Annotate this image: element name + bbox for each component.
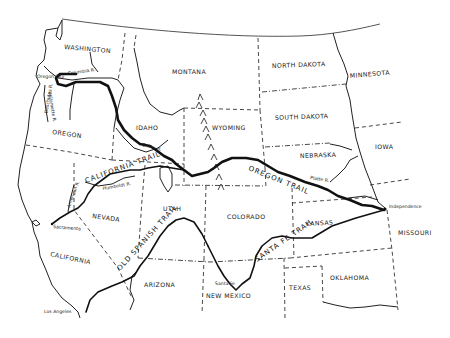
tx-ok-east bbox=[322, 266, 323, 302]
ne-ks-border bbox=[292, 197, 372, 203]
place-label-los-angeles: Los Angeles bbox=[44, 309, 72, 314]
state-label-south-dakota: SOUTH DAKOTA bbox=[275, 112, 329, 121]
state-label-nevada: NEVADA bbox=[92, 212, 121, 223]
state-label-washington: WASHINGTON bbox=[64, 43, 111, 54]
mn-ia-border bbox=[355, 122, 402, 128]
wy-sd-border bbox=[260, 110, 265, 168]
state-label-missouri: MISSOURI bbox=[398, 229, 432, 236]
mo-ks-border bbox=[387, 210, 398, 310]
river-label-snake: Snake R. bbox=[142, 142, 163, 152]
ut-co-border bbox=[204, 186, 206, 258]
id-mt-border bbox=[134, 35, 136, 48]
ks-ok-border bbox=[290, 248, 392, 258]
co-ks-border bbox=[292, 188, 294, 258]
state-label-north-dakota: NORTH DAKOTA bbox=[272, 60, 326, 69]
independence-marker bbox=[383, 207, 386, 210]
nd-sd-border bbox=[262, 84, 346, 92]
red-river bbox=[323, 302, 398, 308]
wa-id-border bbox=[118, 33, 125, 80]
deschutes-line bbox=[70, 84, 74, 120]
pacific-coastline bbox=[18, 20, 80, 318]
puget-sound bbox=[56, 20, 62, 40]
place-label-independence: Independence bbox=[389, 204, 422, 209]
state-label-new-mexico: NEW MEXICO bbox=[206, 292, 251, 299]
state-label-oregon: OREGON bbox=[52, 128, 82, 139]
red-river-border bbox=[333, 33, 385, 208]
az-nm-border bbox=[202, 258, 204, 314]
mt-nd-border bbox=[258, 38, 260, 110]
state-label-idaho: IDAHO bbox=[136, 124, 158, 131]
state-label-montana: MONTANA bbox=[172, 68, 206, 75]
or-ca-border bbox=[26, 145, 112, 160]
place-label-sacramento: Sacramento bbox=[53, 224, 81, 231]
great-salt-lake-shape bbox=[160, 166, 172, 192]
mt-wy-border bbox=[184, 108, 260, 110]
place-label-oregon-city: Oregon City bbox=[37, 74, 65, 79]
place-label-santa-fe: Santa Fe bbox=[215, 281, 235, 286]
river-label-american: American R. bbox=[66, 180, 80, 208]
state-label-iowa: IOWA bbox=[375, 143, 394, 150]
bitterroot-line bbox=[134, 48, 184, 115]
tx-panhandle-west bbox=[284, 258, 285, 318]
state-label-texas: TEXAS bbox=[288, 284, 311, 291]
or-id-border-south bbox=[112, 128, 114, 160]
trails-map: WASHINGTON OREGON CALIFORNIA NEVADA IDAH… bbox=[0, 0, 450, 338]
state-label-nebraska: NEBRASKA bbox=[300, 151, 337, 159]
state-label-oklahoma: OKLAHOMA bbox=[330, 274, 369, 281]
platte-river-line bbox=[330, 156, 358, 182]
tx-ok-north bbox=[285, 266, 322, 268]
state-label-california: CALIFORNIA bbox=[50, 250, 92, 265]
canada-border bbox=[62, 19, 380, 36]
sd-ne-border bbox=[265, 143, 330, 147]
nebraska-river bbox=[330, 144, 352, 150]
ia-mo-border bbox=[370, 179, 410, 185]
state-label-colorado: COLORADO bbox=[227, 213, 265, 220]
river-label-columbia: Columbia R. bbox=[67, 67, 95, 76]
trail-label-old-spanish: OLD SPANISH TRAIL bbox=[116, 203, 179, 272]
sf-bay bbox=[32, 220, 40, 226]
state-label-wyoming: WYOMING bbox=[212, 124, 246, 131]
state-label-arizona: ARIZONA bbox=[144, 281, 175, 288]
river-label-platte: Platte R. bbox=[310, 175, 330, 183]
state-label-minnesota: MINNESOTA bbox=[349, 68, 390, 79]
map-canvas: WASHINGTON OREGON CALIFORNIA NEVADA IDAH… bbox=[0, 0, 450, 338]
river-label-humboldt: Humboldt R. bbox=[102, 181, 131, 191]
